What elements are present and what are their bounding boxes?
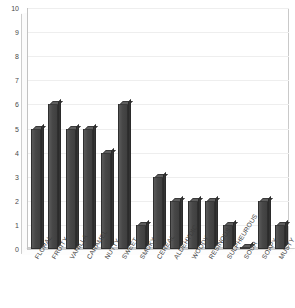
x-label-sweet: SWEET [121, 237, 139, 261]
x-label-smoky: SMOKY [139, 236, 157, 260]
x-axis-labels: FLORALFRUITYVANILLACARAMELNUTTYSWEETSMOK… [0, 0, 295, 308]
x-label-nutty: NUTTY [104, 238, 122, 261]
x-label-fruity: FRUITY [51, 236, 70, 260]
x-label-soapy: SOAPY [261, 237, 279, 260]
x-label-sulpheurous: SULPHEUROUS [226, 213, 259, 260]
x-label-sour: SOUR [243, 240, 259, 260]
bar-chart: 012345678910 FLORALFRUITYVANILLACARAMELN… [0, 0, 295, 308]
x-label-musty: MUSTY [278, 237, 295, 261]
